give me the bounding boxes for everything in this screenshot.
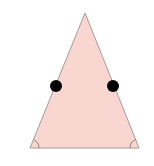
triangle-diagram: [0, 0, 154, 166]
midpoint-dot-left: [50, 80, 62, 92]
midpoint-dot-right: [107, 80, 119, 92]
isosceles-triangle: [30, 13, 139, 148]
